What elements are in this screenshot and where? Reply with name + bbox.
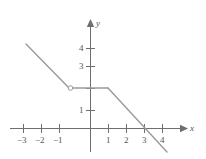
- y-tick-label-1: 1: [79, 106, 84, 115]
- y-axis-label: y: [96, 19, 100, 28]
- open-circle-marker: [68, 86, 73, 91]
- x-tick-label-neg1: −1: [53, 136, 63, 145]
- y-axis-arrowhead: [87, 19, 94, 27]
- x-tick-label-1: 1: [106, 136, 111, 145]
- curve-left-ray: [26, 44, 69, 88]
- x-tick-label-neg2: −2: [35, 136, 45, 145]
- x-axis-arrowhead: [180, 125, 188, 132]
- x-tick-label-neg3: −3: [17, 136, 27, 145]
- x-tick-label-2: 2: [124, 136, 129, 145]
- curve-right-ray: [108, 88, 167, 152]
- x-axis-label: x: [190, 124, 194, 133]
- x-tick-label-4: 4: [160, 136, 165, 145]
- x-tick-label-3: 3: [142, 136, 147, 145]
- y-tick-label-3: 3: [79, 62, 84, 71]
- graph-figure: −3 −2 −1 1 2 3 4 1 3 4 x y: [0, 0, 206, 159]
- plot-canvas: [0, 0, 206, 159]
- y-tick-label-4: 4: [79, 44, 84, 53]
